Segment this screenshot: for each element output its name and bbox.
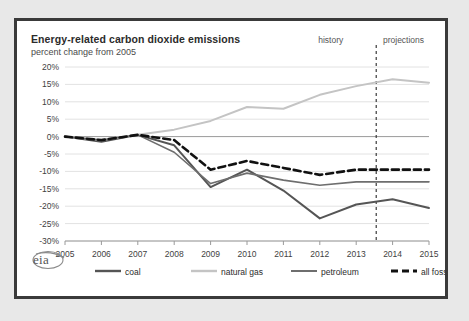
- x-axis-tick-label: 2011: [274, 249, 293, 259]
- line-chart: 20%15%10%5%0%-5%-10%-15%-20%-25%-30%2005…: [17, 21, 445, 296]
- y-axis-tick-label: -10%: [39, 166, 59, 176]
- legend-label-all-fossil-fuels: all fossil fuels: [421, 267, 445, 277]
- y-axis-tick-label: -30%: [39, 236, 59, 246]
- y-axis-tick-label: -5%: [44, 149, 60, 159]
- annotation-projections: projections: [383, 35, 424, 45]
- series-line-natural-gas: [65, 79, 429, 140]
- x-axis-tick-label: 2013: [347, 249, 366, 259]
- y-axis-tick-label: 5%: [47, 114, 60, 124]
- eia-logo: eia: [31, 249, 69, 271]
- x-axis-tick-label: 2014: [383, 249, 402, 259]
- y-axis-tick-label: 15%: [42, 79, 59, 89]
- y-axis-tick-label: -20%: [39, 201, 59, 211]
- x-axis-tick-label: 2008: [165, 249, 184, 259]
- y-axis-tick-label: 0%: [47, 132, 60, 142]
- legend-label-petroleum: petroleum: [321, 267, 359, 277]
- x-axis-tick-label: 2006: [92, 249, 111, 259]
- x-axis-tick-label: 2012: [310, 249, 329, 259]
- legend-label-natural-gas: natural gas: [221, 267, 263, 277]
- chart-card: Energy-related carbon dioxide emissions …: [17, 21, 445, 296]
- x-axis-tick-label: 2007: [128, 249, 147, 259]
- screenshot-root: Energy-related carbon dioxide emissions …: [0, 0, 469, 321]
- x-axis-tick-label: 2009: [201, 249, 220, 259]
- annotation-history: history: [318, 35, 344, 45]
- legend-label-coal: coal: [125, 267, 141, 277]
- y-axis-tick-label: 20%: [42, 62, 59, 72]
- y-axis-tick-label: 10%: [42, 97, 59, 107]
- chart-frame: Energy-related carbon dioxide emissions …: [14, 18, 448, 299]
- y-axis-tick-label: -25%: [39, 219, 59, 229]
- x-axis-tick-label: 2015: [420, 249, 439, 259]
- x-axis-tick-label: 2010: [238, 249, 257, 259]
- y-axis-tick-label: -15%: [39, 184, 59, 194]
- eia-logo-text: eia: [33, 252, 49, 268]
